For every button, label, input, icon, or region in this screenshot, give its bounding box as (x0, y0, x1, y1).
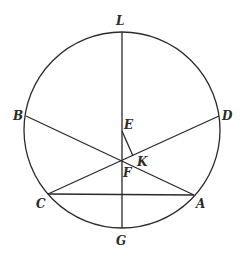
point-label-k: K (136, 155, 148, 169)
segment-ek (122, 131, 133, 156)
point-label-l: L (115, 14, 124, 28)
point-label-d: D (221, 109, 233, 123)
point-label-c: C (36, 197, 46, 211)
geometry-figure: LGBDCAEFK (0, 0, 245, 259)
point-label-b: B (12, 109, 23, 123)
segment-ca (48, 194, 194, 195)
segments-group (26, 32, 219, 228)
segment-ba (26, 116, 194, 195)
point-label-e: E (123, 118, 134, 132)
point-label-f: F (122, 166, 133, 180)
point-label-g: G (116, 234, 126, 248)
point-label-a: A (195, 197, 205, 211)
segment-cd (48, 116, 219, 194)
